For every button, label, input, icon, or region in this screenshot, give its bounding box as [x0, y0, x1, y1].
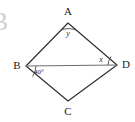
vertex-label-c: C: [64, 105, 71, 117]
geometry-figure: B A B C D y 40° x: [0, 0, 135, 122]
rhombus-outline: [26, 23, 117, 101]
angle-label-40-degrees: 40°: [34, 68, 44, 76]
vertex-label-b: B: [13, 59, 20, 71]
vertex-label-d: D: [122, 58, 130, 70]
rhombus-diagram: A B C D y 40° x: [0, 0, 135, 122]
angle-label-x: x: [98, 55, 103, 64]
angle-label-y: y: [65, 29, 70, 38]
vertex-label-a: A: [64, 5, 72, 17]
diagonal-bd-line: [26, 65, 117, 66]
